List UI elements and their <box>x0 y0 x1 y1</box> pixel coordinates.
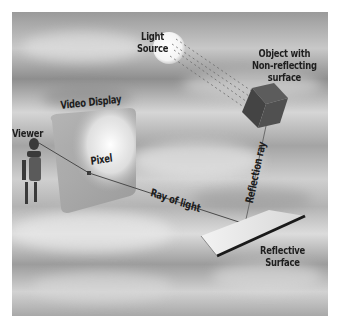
non-reflecting-object <box>242 83 288 128</box>
label-object-line3: surface <box>252 72 317 84</box>
label-light-source: Light Source <box>137 31 168 55</box>
label-light-source-line2: Source <box>137 43 168 55</box>
label-reflective-surface: Reflective Surface <box>260 245 305 269</box>
label-object: Object with Non-reflecting surface <box>252 48 317 84</box>
diagram-canvas: Light Source Object with Non-reflecting … <box>12 12 328 316</box>
viewer-figure <box>22 138 41 204</box>
label-viewer: Viewer <box>12 128 43 140</box>
label-reflective-surface-line2: Surface <box>260 257 305 269</box>
